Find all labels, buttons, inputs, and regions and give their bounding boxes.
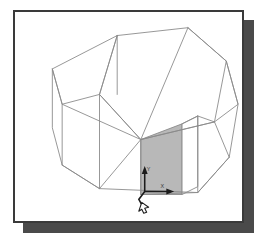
- wireframe-drawing-canvas[interactable]: Y X: [15, 12, 242, 221]
- axis-x-label: X: [160, 183, 164, 189]
- cursor-pointer-icon[interactable]: [139, 202, 149, 213]
- 3d-wireframe-viewport[interactable]: Y X: [13, 10, 244, 223]
- axis-y-label: Y: [147, 166, 151, 172]
- screenshot-root: Y X: [0, 0, 267, 238]
